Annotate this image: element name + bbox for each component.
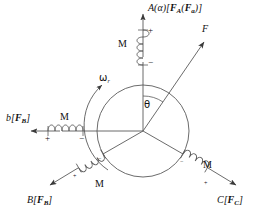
vector-label-F: F <box>202 24 208 34</box>
vector-F <box>143 42 204 131</box>
axis-label-C-bracket-close: ] <box>239 194 243 205</box>
angle-label-theta: θ <box>144 95 150 111</box>
axis-label-B-bracket-close: ] <box>48 194 52 205</box>
coil-label-C-M: M <box>203 160 212 170</box>
coil-C-sign-negative: − <box>180 158 183 164</box>
coil-label-B-M: M <box>95 179 104 189</box>
axis-label-B-F: F <box>37 194 44 205</box>
coil-A-sign-positive: + <box>148 26 153 35</box>
coil-B-sign-positive: + <box>73 173 76 179</box>
coil-C-sign-positive: + <box>204 180 207 186</box>
axis-label-A: A(α)[FA(Fa)] <box>148 3 202 15</box>
theta-glyph: θ <box>144 99 150 110</box>
coil-label-A-M: M <box>118 39 127 49</box>
coil-B <box>79 154 106 173</box>
axis-label-A-paren: (α) <box>154 2 166 13</box>
axis-label-b-bracket-close: ] <box>26 112 30 123</box>
coil-label-b-M: M <box>60 112 69 122</box>
axis-label-A-bracket-close: ] <box>198 2 202 13</box>
coil-b-sign-negative: − <box>79 134 84 143</box>
figure-canvas: A(α)[FA(Fa)] M + − b[FB] M + − B[FB] M +… <box>0 0 258 220</box>
coil-b <box>48 125 83 131</box>
axis-label-A-F: F <box>170 2 177 13</box>
rotation-label-omega: ωr <box>99 68 110 84</box>
axis-line-C <box>143 131 183 154</box>
diagram-vector-graphics <box>0 0 258 220</box>
axis-line-B <box>103 131 143 154</box>
omega-subscript: r <box>107 78 109 84</box>
coil-B-tick-far <box>76 164 81 173</box>
axis-label-b-F: F <box>15 112 22 123</box>
axis-label-C: C[FC] <box>217 195 243 207</box>
axis-label-C-main: C <box>217 194 224 205</box>
axis-label-B: B[FB] <box>27 195 52 207</box>
axis-label-b: b[FB] <box>6 113 30 125</box>
axis-line-C-outer <box>208 168 236 185</box>
coil-A-sign-negative: − <box>148 58 153 67</box>
coil-b-sign-positive: + <box>45 134 50 143</box>
coil-B-sign-negative: − <box>98 155 101 161</box>
